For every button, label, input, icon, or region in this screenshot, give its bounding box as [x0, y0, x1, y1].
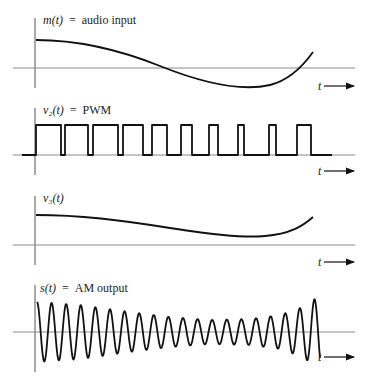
- am-modulation-diagram: m(t)=audio input t v₂(t)=PWM t v₃(t) t s…: [0, 0, 377, 383]
- panel-label: s(t)=AM output: [40, 281, 128, 295]
- panel-label: v₂(t)=PWM: [43, 103, 112, 117]
- panel-audio-input: m(t)=audio input t: [13, 13, 355, 93]
- t-axis-label: t: [318, 79, 322, 93]
- panel-pwm: v₂(t)=PWM t: [13, 103, 355, 178]
- panel-v3: v₃(t) t: [13, 191, 355, 269]
- pwm-signal: [22, 125, 332, 155]
- t-axis-label: t: [318, 350, 322, 364]
- audio-signal-curve: [36, 40, 313, 87]
- panel-am-output: s(t)=AM output t: [13, 281, 355, 372]
- t-axis-label: t: [318, 164, 322, 178]
- am-signal-waveform: [37, 299, 320, 361]
- panel-label: m(t)=audio input: [43, 13, 137, 27]
- filtered-signal-curve: [36, 215, 313, 237]
- t-axis-label: t: [318, 255, 322, 269]
- panel-label: v₃(t): [43, 191, 64, 205]
